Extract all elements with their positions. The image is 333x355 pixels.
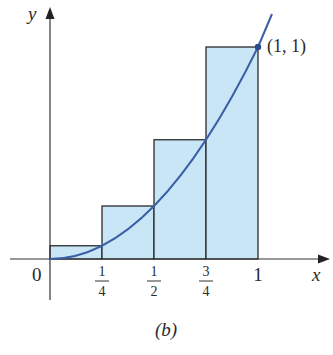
rectangle-4 [206, 47, 258, 259]
tick-1-4: 1 4 [95, 264, 109, 299]
y-axis-label: y [26, 3, 37, 24]
x-axis-arrow-icon [318, 255, 330, 264]
rectangle-1 [50, 246, 102, 259]
tick-1-4-denominator: 4 [99, 284, 106, 299]
tick-3-4-numerator: 3 [203, 264, 210, 279]
point-1-1-marker [255, 44, 261, 50]
tick-1: 1 [253, 264, 263, 285]
rectangle-3 [154, 140, 206, 259]
y-axis-arrow-icon [46, 7, 55, 19]
figure-caption: (b) [155, 319, 177, 341]
rectangles [50, 47, 258, 259]
tick-1-2-numerator: 1 [151, 264, 158, 279]
tick-1-4-numerator: 1 [99, 264, 106, 279]
riemann-sum-figure: y x 0 (1, 1) 1 4 1 2 3 4 1 (b) [0, 0, 333, 355]
point-label: (1, 1) [267, 36, 306, 57]
x-axis-label: x [311, 264, 321, 285]
tick-3-4-denominator: 4 [203, 284, 210, 299]
tick-3-4: 3 4 [199, 264, 213, 299]
tick-1-2: 1 2 [147, 264, 161, 299]
origin-label: 0 [32, 264, 42, 285]
tick-1-2-denominator: 2 [151, 284, 158, 299]
